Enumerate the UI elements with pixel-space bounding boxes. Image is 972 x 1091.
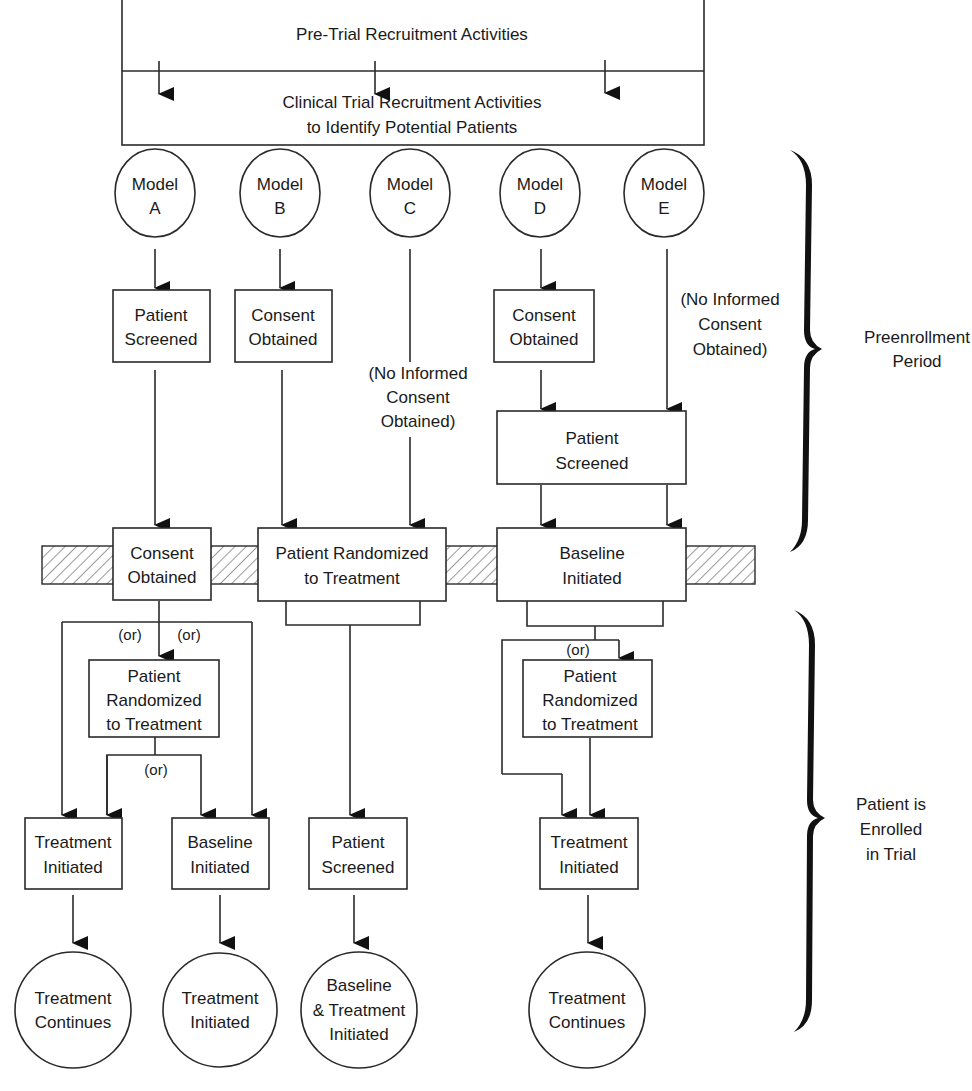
- or-label: (or): [118, 626, 141, 643]
- svg-text:Baseline: Baseline: [559, 544, 624, 563]
- svg-text:Treatment: Treatment: [549, 989, 626, 1008]
- or-label: (or): [144, 761, 167, 778]
- clinical-trial-label-line1: Clinical Trial Recruitment Activities: [283, 93, 542, 112]
- svg-text:Model: Model: [132, 175, 178, 194]
- svg-text:Consent: Consent: [386, 388, 450, 407]
- svg-text:Treatment: Treatment: [35, 989, 112, 1008]
- outcome-treatment-initiated: Treatment Initiated: [163, 953, 277, 1067]
- model-b: Model B: [240, 149, 320, 237]
- model-de-patient-screened-box: Patient Screened: [497, 411, 686, 484]
- preenrollment-label: Preenrollment Period: [864, 328, 970, 371]
- svg-text:Initiated: Initiated: [190, 1013, 250, 1032]
- svg-text:Model: Model: [517, 175, 563, 194]
- svg-text:Patient: Patient: [128, 667, 181, 686]
- model-c: Model C: [370, 149, 450, 237]
- svg-text:Treatment: Treatment: [551, 833, 628, 852]
- svg-text:to Treatment: to Treatment: [542, 715, 638, 734]
- svg-text:Baseline: Baseline: [326, 976, 391, 995]
- svg-text:Initiated: Initiated: [562, 569, 622, 588]
- svg-text:Patient: Patient: [566, 429, 619, 448]
- svg-text:Obtained: Obtained: [249, 330, 318, 349]
- svg-text:Screened: Screened: [322, 858, 395, 877]
- outcome-treatment-continues-d: Treatment Continues: [529, 952, 645, 1068]
- model-a-treatment-initiated-box: Treatment Initiated: [25, 818, 122, 889]
- svg-text:A: A: [149, 199, 161, 218]
- svg-text:to Treatment: to Treatment: [304, 569, 400, 588]
- model-bc-patient-screened-box: Patient Screened: [309, 818, 407, 889]
- svg-text:Model: Model: [387, 175, 433, 194]
- patient-enrollment-flow-diagram: Pre-Trial Recruitment Activities Clinica…: [0, 0, 972, 1091]
- model-a-baseline-initiated-box: Baseline Initiated: [172, 818, 269, 889]
- svg-text:Continues: Continues: [35, 1013, 112, 1032]
- model-a-patient-randomized-box: Patient Randomized to Treatment: [89, 660, 219, 737]
- svg-text:Patient is: Patient is: [856, 795, 926, 814]
- svg-text:E: E: [658, 199, 669, 218]
- svg-text:Continues: Continues: [549, 1013, 626, 1032]
- svg-text:Model: Model: [641, 175, 687, 194]
- model-c-no-consent-note: (No Informed Consent Obtained): [368, 364, 467, 431]
- svg-text:Obtained: Obtained: [128, 568, 197, 587]
- svg-text:Patient: Patient: [332, 833, 385, 852]
- svg-text:Baseline: Baseline: [187, 833, 252, 852]
- svg-text:& Treatment: & Treatment: [313, 1001, 406, 1020]
- svg-text:Obtained): Obtained): [381, 412, 456, 431]
- model-a-patient-screened-box: Patient Screened: [113, 290, 210, 362]
- enrolled-brace-icon: [794, 610, 825, 1032]
- model-e: Model E: [624, 149, 704, 237]
- enrolled-label: Patient is Enrolled in Trial: [856, 795, 926, 864]
- clinical-trial-label-line2: to Identify Potential Patients: [307, 118, 518, 137]
- model-de-baseline-initiated-box: Baseline Initiated: [497, 528, 686, 601]
- preenrollment-brace-icon: [790, 150, 822, 552]
- svg-text:Initiated: Initiated: [190, 858, 250, 877]
- outcome-treatment-continues-a: Treatment Continues: [15, 952, 131, 1068]
- svg-text:Patient: Patient: [135, 306, 188, 325]
- pre-trial-label: Pre-Trial Recruitment Activities: [296, 25, 528, 44]
- svg-text:Consent: Consent: [251, 306, 315, 325]
- svg-text:B: B: [274, 199, 285, 218]
- svg-text:Model: Model: [257, 175, 303, 194]
- model-de-treatment-initiated-box: Treatment Initiated: [540, 818, 638, 889]
- model-d: Model D: [500, 149, 580, 237]
- svg-text:(No Informed: (No Informed: [680, 290, 779, 309]
- svg-text:Period: Period: [892, 352, 941, 371]
- model-a: Model A: [115, 149, 195, 237]
- model-a-consent-obtained-box: Consent Obtained: [113, 528, 211, 600]
- model-bc-patient-randomized-box: Patient Randomized to Treatment: [258, 528, 446, 601]
- or-label: (or): [566, 641, 589, 658]
- svg-text:C: C: [404, 199, 416, 218]
- outcome-baseline-treatment-initiated: Baseline & Treatment Initiated: [301, 952, 417, 1068]
- svg-text:Consent: Consent: [512, 306, 576, 325]
- svg-text:to Treatment: to Treatment: [106, 715, 202, 734]
- model-e-no-consent-note: (No Informed Consent Obtained): [680, 290, 779, 359]
- model-de-patient-randomized-box: Patient Randomized to Treatment: [523, 660, 652, 737]
- svg-text:Screened: Screened: [125, 330, 198, 349]
- svg-text:(No Informed: (No Informed: [368, 364, 467, 383]
- svg-text:Consent: Consent: [130, 544, 194, 563]
- svg-text:Consent: Consent: [698, 315, 762, 334]
- svg-text:Treatment: Treatment: [182, 989, 259, 1008]
- svg-text:Patient Randomized: Patient Randomized: [275, 544, 428, 563]
- svg-text:Initiated: Initiated: [559, 858, 619, 877]
- svg-text:Obtained: Obtained: [510, 330, 579, 349]
- svg-text:Treatment: Treatment: [35, 833, 112, 852]
- recruitment-activities-box: Pre-Trial Recruitment Activities Clinica…: [122, 0, 704, 145]
- svg-text:in Trial: in Trial: [866, 845, 916, 864]
- or-label: (or): [177, 626, 200, 643]
- svg-text:Patient: Patient: [564, 667, 617, 686]
- svg-text:D: D: [534, 199, 546, 218]
- model-b-consent-obtained-box: Consent Obtained: [235, 290, 332, 362]
- svg-text:Obtained): Obtained): [693, 340, 768, 359]
- svg-text:Initiated: Initiated: [329, 1025, 389, 1044]
- svg-text:Randomized: Randomized: [542, 691, 637, 710]
- svg-text:Screened: Screened: [556, 454, 629, 473]
- svg-text:Preenrollment: Preenrollment: [864, 328, 970, 347]
- svg-text:Enrolled: Enrolled: [860, 820, 922, 839]
- model-d-consent-obtained-box: Consent Obtained: [494, 290, 594, 362]
- svg-text:Initiated: Initiated: [43, 858, 103, 877]
- svg-text:Randomized: Randomized: [106, 691, 201, 710]
